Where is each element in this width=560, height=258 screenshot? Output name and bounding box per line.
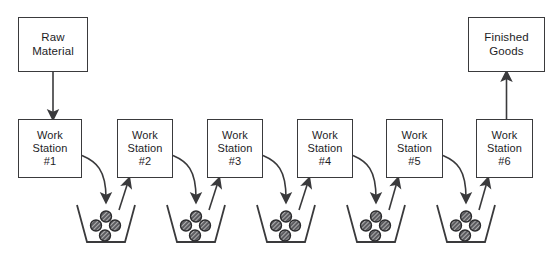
- wip-bin-1-part-4: [100, 230, 111, 241]
- wip-bin-1-part-1: [101, 211, 112, 222]
- wip-bin-4-part-4: [370, 230, 381, 241]
- wip-bin-1-part-3: [110, 220, 121, 231]
- wip-bin-3-part-4: [280, 230, 291, 241]
- connector-wip-bin-2-to-work-station-3: [209, 182, 218, 210]
- connector-work-station-5-to-wip-bin-5: [443, 156, 466, 198]
- work-station-6: Work Station #6: [476, 119, 533, 178]
- work-station-4-label: Work Station #4: [308, 129, 343, 168]
- wip-bin-4-part-1: [371, 211, 382, 222]
- raw-material-label: Raw Material: [32, 31, 74, 58]
- wip-bin-2-part-1: [191, 211, 202, 222]
- connector-work-station-3-to-wip-bin-3: [263, 156, 286, 198]
- work-station-3-label: Work Station #3: [218, 129, 253, 168]
- work-station-6-label: Work Station #6: [487, 129, 522, 168]
- work-station-4: Work Station #4: [297, 119, 353, 178]
- connector-wip-bin-3-to-work-station-4: [299, 182, 308, 210]
- finished-goods-label: Finished Goods: [484, 31, 528, 58]
- work-station-2-label: Work Station #2: [128, 129, 163, 168]
- work-station-5: Work Station #5: [386, 119, 443, 178]
- connector-wip-bin-5-to-work-station-6: [479, 182, 487, 210]
- wip-bin-5-part-2: [451, 220, 462, 231]
- connector-work-station-4-to-wip-bin-4: [353, 156, 376, 198]
- connector-wip-bin-1-to-work-station-2: [119, 182, 128, 210]
- connector-work-station-2-to-wip-bin-2: [173, 156, 196, 198]
- wip-bin-3-part-2: [271, 220, 282, 231]
- work-station-1: Work Station #1: [18, 119, 82, 178]
- process-flow-diagram: Raw Material Finished Goods Work Station…: [0, 0, 560, 258]
- wip-bin-2-part-4: [190, 230, 201, 241]
- connector-work-station-1-to-wip-bin-1: [82, 156, 106, 198]
- wip-bin-5-part-1: [461, 211, 472, 222]
- wip-bin-4-part-2: [361, 220, 372, 231]
- wip-bin-1-part-2: [91, 220, 102, 231]
- work-station-5-label: Work Station #5: [397, 129, 432, 168]
- work-station-2: Work Station #2: [117, 119, 173, 178]
- finished-goods-node: Finished Goods: [468, 17, 545, 72]
- work-station-1-label: Work Station #1: [33, 129, 68, 168]
- wip-bin-5-part-4: [460, 230, 471, 241]
- wip-bin-3-part-1: [281, 211, 292, 222]
- wip-bin-3-part-3: [290, 220, 301, 231]
- wip-bin-5-part-3: [470, 220, 481, 231]
- wip-bin-4-part-3: [380, 220, 391, 231]
- work-station-3: Work Station #3: [207, 119, 263, 178]
- wip-bin-2-part-2: [181, 220, 192, 231]
- wip-bin-2-part-3: [200, 220, 211, 231]
- raw-material-node: Raw Material: [18, 17, 88, 72]
- connector-wip-bin-4-to-work-station-5: [389, 182, 397, 210]
